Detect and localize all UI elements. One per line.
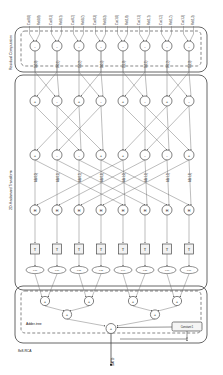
residual-output-label: D(1,2)	[166, 60, 170, 68]
residual-output-label: D(1,1)	[144, 60, 148, 68]
input-label: Cur(0,2)	[71, 15, 75, 25]
input-label: Ref(0,3)	[103, 15, 107, 25]
hadamard-stage1-node: -	[184, 96, 194, 106]
abs-box: T	[119, 244, 128, 254]
hadamard-stage2-node: +	[184, 150, 194, 160]
residual-sub-node: -	[96, 41, 106, 51]
hadamard-stage3-node: H	[162, 205, 172, 215]
hadamard-stage2-row: + - - + + - -	[30, 150, 194, 160]
residual-output-labels: D(0,0) D(0,1) D(0,2) D(0,3) D(1,0) D(1,1…	[34, 60, 192, 68]
hadamard-stage3-node: H	[52, 205, 62, 215]
hadamard-stage2-node: -	[140, 150, 150, 160]
residual-output-label: D(0,1)	[56, 60, 60, 68]
input-label: Cur(0,0)	[27, 15, 31, 25]
abs-box: T	[97, 244, 106, 254]
block-label-rca: 8x8-RCA	[18, 349, 32, 353]
hadamard-stage1-node: -	[52, 96, 62, 106]
hadamard-stage3-node: H	[118, 205, 128, 215]
panel-residual	[15, 27, 207, 72]
hadamard-stage3-node: H	[140, 205, 150, 215]
residual-subtractor-row: - - - - - - -	[30, 41, 194, 51]
hadamard-output-label: AB(0,1)	[56, 173, 60, 182]
op-symbol: H	[122, 209, 125, 213]
abs-result-node: |H7|	[180, 266, 198, 273]
hadamard-stage1-node: +	[30, 96, 40, 106]
top-input-labels: Cur(0,0) Ref(0,0) Cur(0,1) Ref(0,1) Cur(…	[27, 15, 195, 25]
section-label-hadamard: 2D-Hadamard Transform	[9, 170, 13, 210]
hadamard-stage3-node: H	[30, 205, 40, 215]
adder-tree-level2: + +	[62, 310, 159, 319]
op-symbol: H	[166, 209, 169, 213]
adder-node: +	[40, 296, 49, 305]
input-label: Ref(1,2)	[169, 15, 173, 25]
op-symbol: H	[100, 209, 103, 213]
residual-output-label: D(0,3)	[100, 60, 104, 68]
residual-output-label: D(0,2)	[78, 60, 82, 68]
hadamard-stage1-row: + - + - + - +	[30, 96, 194, 106]
abs-result-node: |H4|	[114, 266, 132, 273]
wires-stage3-to-abs	[35, 215, 189, 243]
input-label: Ref(1,0)	[125, 15, 129, 25]
input-label: Cur(1,3)	[181, 15, 185, 25]
abs-result-row: |H0| |H1| |H2| |H3| |H4| |H5|	[26, 266, 198, 273]
hadamard-stage1-node: -	[96, 96, 106, 106]
butterfly-wires-stage2	[35, 106, 191, 150]
hadamard-stage2-node: -	[74, 150, 84, 160]
abs-result-label: |H3|	[99, 269, 104, 271]
input-label: Ref(1,3)	[191, 15, 195, 25]
abs-result-label: |H4|	[121, 269, 126, 271]
input-label: Ref(0,0)	[37, 15, 41, 25]
abs-result-label: |H1|	[55, 269, 60, 271]
residual-sub-node: -	[184, 41, 194, 51]
abs-result-label: |H2|	[77, 269, 82, 271]
adder-tree-level3: +	[106, 324, 116, 334]
op-symbol: H	[188, 209, 191, 213]
residual-sub-node: -	[162, 41, 172, 51]
hadamard-output-label: AB(0,0)	[34, 173, 38, 182]
hadamard-stage3-node: H	[184, 205, 194, 215]
input-label: Cur(1,2)	[159, 15, 163, 25]
panel-residual-dashed	[21, 31, 201, 66]
op-symbol: H	[56, 209, 59, 213]
hadamard-stage3-row: H H H H H H H	[30, 205, 194, 215]
residual-input-wires	[30, 26, 194, 41]
hadamard-stage1-node: +	[74, 96, 84, 106]
adder-node: +	[128, 296, 137, 305]
hadamard-stage2-node: +	[30, 150, 40, 160]
abs-result-node: |H0|	[26, 266, 44, 273]
residual-output-label: D(1,0)	[122, 60, 126, 68]
input-label: Ref(0,1)	[59, 15, 63, 25]
residual-output-label: D(0,0)	[34, 60, 38, 68]
abs-box: T	[31, 244, 40, 254]
op-symbol: H	[144, 209, 147, 213]
adder-node: +	[84, 296, 93, 305]
section-label-residual: Residual Computation	[9, 35, 13, 70]
input-label: Cur(0,3)	[93, 15, 97, 25]
abs-result-label: |H7|	[187, 269, 192, 271]
hadamard-stage2-node: +	[96, 150, 106, 160]
hadamard-output-label: AB(0,3)	[100, 173, 104, 182]
hadamard-stage1-node: +	[118, 96, 128, 106]
residual-sub-node: -	[30, 41, 40, 51]
hadamard-stage2-node: -	[52, 150, 62, 160]
input-label: Cur(1,0)	[115, 15, 119, 25]
output-label: SATD	[111, 357, 115, 366]
abs-box: T	[185, 244, 194, 254]
abs-result-label: |H5|	[143, 269, 148, 271]
panel-hadamard	[15, 75, 207, 290]
butterfly-wires-stage1	[35, 51, 191, 96]
constant-label: Constant 1	[181, 325, 194, 329]
adder-node: +	[62, 310, 71, 319]
input-label: Cur(0,1)	[49, 15, 53, 25]
abs-result-label: |H0|	[33, 269, 38, 271]
op-symbol: H	[34, 209, 37, 213]
abs-result-node: |H1|	[48, 266, 66, 273]
abs-result-label: |H6|	[165, 269, 170, 271]
abs-box: T	[53, 244, 62, 254]
abs-result-node: |H6|	[158, 266, 176, 273]
abs-box-row: T T T T T T T	[31, 244, 194, 254]
hadamard-stage2-node: +	[118, 150, 128, 160]
output-bus: SATD	[111, 334, 115, 367]
residual-sub-node: -	[74, 41, 84, 51]
abs-box: T	[163, 244, 172, 254]
